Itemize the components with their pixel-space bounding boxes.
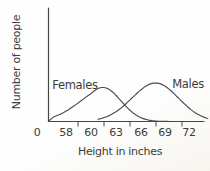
females-series-label: Females <box>52 80 97 92</box>
x-tick-label-60: 60 <box>84 127 97 138</box>
x-tick-label-0: 0 <box>34 127 41 138</box>
x-tick-label-66: 66 <box>134 127 147 138</box>
x-tick-label-69: 69 <box>158 127 171 138</box>
height-distribution-figure: Number of people Height in inches 0 58 6… <box>0 0 210 171</box>
x-axis-label: Height in inches <box>78 146 162 157</box>
females-curve <box>49 88 170 122</box>
x-tick-label-58: 58 <box>59 127 72 138</box>
y-axis-label: Number of people <box>11 15 22 109</box>
males-series-label: Males <box>172 79 204 91</box>
x-tick-label-63: 63 <box>109 127 122 138</box>
x-tick-label-72: 72 <box>182 127 195 138</box>
